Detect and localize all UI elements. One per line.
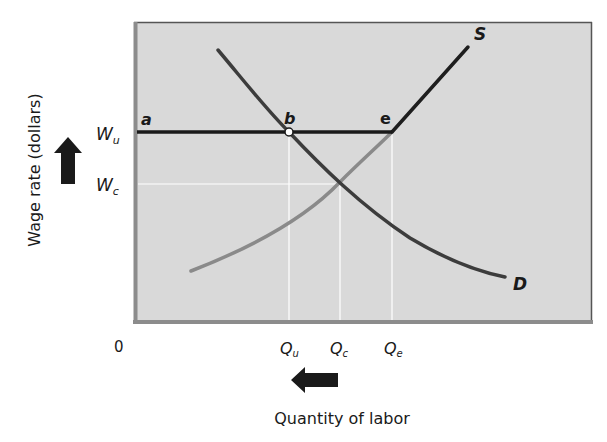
labor-market-chart: a b e S D Wu Wc 0 Qu Qc Qe Wage rate (do… — [0, 0, 607, 442]
wc-tick-label: Wc — [96, 175, 119, 198]
wu-tick-label: Wu — [96, 124, 120, 147]
point-b-label: b — [284, 109, 295, 128]
supply-curve-label: S — [474, 24, 486, 44]
point-b-marker — [285, 128, 293, 136]
qe-tick-label: Qe — [384, 339, 403, 359]
point-a-label: a — [141, 110, 152, 129]
x-axis-title: Quantity of labor — [274, 409, 410, 428]
up-arrow-icon — [54, 137, 82, 184]
demand-curve-label: D — [513, 274, 527, 294]
origin-label: 0 — [114, 338, 124, 356]
point-e-label: e — [380, 109, 391, 128]
qc-tick-label: Qc — [330, 339, 349, 359]
y-axis-title: Wage rate (dollars) — [25, 93, 44, 246]
qu-tick-label: Qu — [280, 339, 299, 359]
left-arrow-icon — [291, 367, 338, 393]
